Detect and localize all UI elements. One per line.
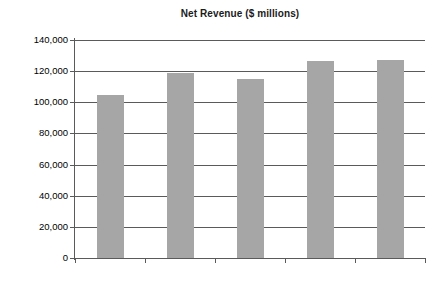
bar-2011[interactable] [377, 60, 404, 258]
y-axis-tick-mark [70, 133, 75, 134]
x-axis-tick-mark [215, 258, 216, 263]
bar-2009[interactable] [237, 79, 264, 258]
y-axis-tick-mark [70, 227, 75, 228]
bar-2010[interactable] [307, 61, 334, 258]
y-axis-tick-mark [70, 71, 75, 72]
chart-title: Net Revenue ($ millions) [0, 8, 448, 19]
x-axis-tick-mark [355, 258, 356, 263]
chart-figure: Net Revenue ($ millions) 020,00040,00060… [0, 0, 448, 293]
gridline [75, 40, 425, 41]
y-axis-tick-label: 100,000 [34, 98, 68, 108]
y-axis-tick-label: 60,000 [39, 160, 68, 170]
x-axis-tick-mark [285, 258, 286, 263]
y-axis-tick-label: 20,000 [39, 222, 68, 232]
y-axis-tick-label: 140,000 [34, 35, 68, 45]
bar-2007[interactable] [97, 95, 124, 258]
x-axis-tick-mark [425, 258, 426, 263]
y-axis-tick-mark [70, 165, 75, 166]
y-axis-tick-label: 0 [63, 253, 68, 263]
gridline [75, 71, 425, 72]
y-axis-tick-mark [70, 102, 75, 103]
bar-2008[interactable] [167, 73, 194, 258]
y-axis-tick-mark [70, 40, 75, 41]
x-axis-tick-mark [145, 258, 146, 263]
y-axis-tick-label: 40,000 [39, 191, 68, 201]
y-axis-tick-label: 80,000 [39, 129, 68, 139]
y-axis-tick-label: 120,000 [34, 66, 68, 76]
gridline [75, 258, 425, 259]
x-axis-tick-mark [75, 258, 76, 263]
y-axis-tick-mark [70, 196, 75, 197]
plot-area: 020,00040,00060,00080,000100,000120,0001… [75, 40, 425, 258]
